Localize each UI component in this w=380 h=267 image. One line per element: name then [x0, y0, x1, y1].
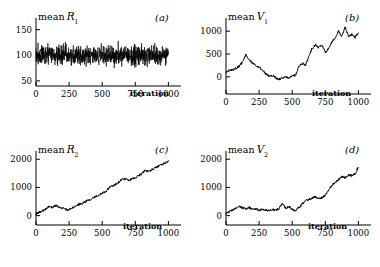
panel-d-letter: (d) [345, 144, 359, 155]
panel-d-ylabel: meanV2 [228, 143, 269, 158]
panel-c-ylabel-prefix: mean [38, 144, 65, 155]
data-trace [36, 41, 168, 68]
panel-a-ylabel-prefix: mean [38, 11, 65, 22]
y-tick-label: 1000 [200, 182, 222, 192]
panel-a-ylabel-sub: 1 [74, 18, 78, 26]
x-tick-label: 250 [61, 89, 77, 99]
panel-a-ylabel: meanR1 [38, 10, 79, 25]
panel-b-ylabel: meanV1 [228, 10, 269, 25]
y-tick-label: 0 [27, 211, 32, 221]
panel-d: meanV2 (d) iteration 0100020000250500750… [190, 133, 380, 266]
data-trace [226, 27, 358, 80]
panel-c: meanR2 (c) iteration 0100020000250500750… [0, 133, 190, 266]
panel-b: meanV1 (b) iteration 0500100002505007501… [190, 0, 380, 133]
x-tick-label: 500 [284, 97, 300, 107]
panel-b-ylabel-sub: 1 [264, 18, 268, 26]
y-tick-label: 500 [206, 49, 222, 59]
panel-d-xlabel: iteration [308, 221, 347, 231]
x-tick-label: 0 [33, 89, 38, 99]
x-tick-label: 500 [284, 228, 300, 238]
panel-b-letter: (b) [345, 12, 359, 23]
y-tick-label: 0 [217, 72, 222, 82]
y-tick-label: 1000 [200, 26, 222, 36]
x-tick-label: 750 [317, 97, 333, 107]
y-tick-label: 1000 [10, 182, 32, 192]
panel-d-ylabel-prefix: mean [228, 144, 255, 155]
x-tick-label: 500 [94, 228, 110, 238]
y-tick-label: 2000 [10, 154, 32, 164]
x-tick-label: 250 [251, 97, 267, 107]
x-tick-label: 1000 [348, 228, 370, 238]
y-tick-label: 50 [21, 76, 32, 86]
x-tick-label: 1000 [348, 97, 370, 107]
x-tick-label: 0 [223, 97, 228, 107]
panel-a-xlabel: iteration [130, 88, 169, 98]
x-tick-label: 500 [94, 89, 110, 99]
x-tick-label: 250 [251, 228, 267, 238]
x-tick-label: 0 [223, 228, 228, 238]
panel-d-ylabel-sub: 2 [264, 151, 268, 159]
panel-a: meanR1 (a) iteration 5010015002505007501… [0, 0, 190, 133]
data-trace [226, 167, 358, 214]
panel-c-ylabel: meanR2 [38, 143, 79, 158]
panel-a-letter: (a) [155, 12, 169, 23]
panel-c-ylabel-sub: 2 [74, 151, 78, 159]
panel-b-ylabel-prefix: mean [228, 11, 255, 22]
y-tick-label: 150 [16, 25, 32, 35]
x-tick-label: 0 [33, 228, 38, 238]
y-tick-label: 0 [217, 211, 222, 221]
x-tick-label: 250 [61, 228, 77, 238]
y-tick-label: 2000 [200, 154, 222, 164]
panel-b-xlabel: iteration [312, 88, 351, 98]
data-trace [36, 161, 168, 215]
panel-c-xlabel: iteration [123, 221, 162, 231]
panel-c-letter: (c) [155, 144, 168, 155]
figure-root: meanR1 (a) iteration 5010015002505007501… [0, 0, 380, 267]
y-tick-label: 100 [16, 50, 32, 60]
